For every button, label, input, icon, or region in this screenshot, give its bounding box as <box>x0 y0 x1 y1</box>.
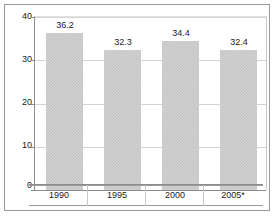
bar-value-1990: 36.2 <box>45 21 85 30</box>
x-tick-label-1995: 1995 <box>88 190 146 200</box>
bar-value-2000: 34.4 <box>161 29 201 38</box>
chart-frame: 40 30 20 10 0 36.2 32.3 34.4 32.4 <box>4 4 270 211</box>
y-tick-label-10: 10 <box>8 141 32 150</box>
x-axis: 1990 1995 2000 2005* <box>29 185 263 206</box>
y-axis: 40 30 20 10 0 <box>5 5 32 212</box>
x-tick-label-2005: 2005* <box>204 190 262 200</box>
y-tick-label-20: 20 <box>8 98 32 107</box>
bar-value-1995: 32.3 <box>103 38 143 47</box>
x-tick-label-2000: 2000 <box>146 190 204 200</box>
bar-1990[interactable] <box>46 33 83 190</box>
y-tick-label-40: 40 <box>8 12 32 21</box>
y-tick-label-30: 30 <box>8 55 32 64</box>
bars-layer: 36.2 32.3 34.4 32.4 <box>34 16 267 190</box>
x-tick-label-1990: 1990 <box>30 190 88 200</box>
bar-2000[interactable] <box>162 41 199 190</box>
bar-value-2005: 32.4 <box>219 38 259 47</box>
bar-1995[interactable] <box>104 50 141 190</box>
bar-2005[interactable] <box>220 50 257 190</box>
